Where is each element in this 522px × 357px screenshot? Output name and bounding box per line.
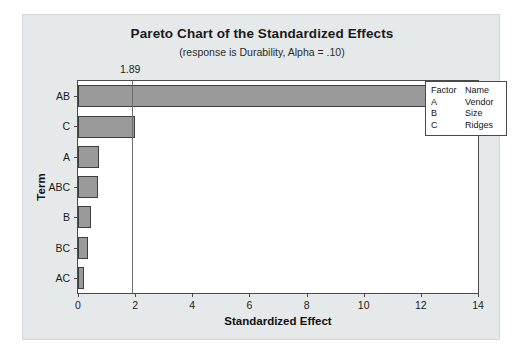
x-tick: [478, 293, 479, 297]
x-tick: [78, 293, 79, 297]
bar-abc: [78, 176, 98, 198]
x-tick: [364, 293, 365, 297]
legend-factor-b: B: [431, 108, 465, 120]
legend-factor-c: C: [431, 120, 465, 132]
chart-subtitle: (response is Durability, Alpha = .10): [23, 46, 501, 58]
legend-header-row: Factor Name: [431, 85, 501, 97]
y-axis-title-label: Term: [35, 173, 47, 200]
y-tick-label-b: B: [63, 211, 70, 223]
x-tick-label-12: 12: [415, 299, 427, 311]
legend-name-b: Size: [465, 108, 501, 120]
bar-row: B: [78, 202, 478, 233]
y-tick-label-ab: AB: [56, 90, 70, 102]
legend-row: A Vendor: [431, 97, 501, 109]
bar-row: ABC: [78, 172, 478, 203]
x-tick-label-6: 6: [247, 299, 253, 311]
legend-header-name: Name: [465, 85, 501, 97]
bar-row: AB: [78, 81, 478, 112]
legend-name-a: Vendor: [465, 97, 501, 109]
pareto-chart: Pareto Chart of the Standardized Effects…: [0, 0, 522, 357]
reference-line: [132, 81, 133, 293]
y-tick-label-bc: BC: [55, 242, 70, 254]
x-tick-label-4: 4: [189, 299, 195, 311]
y-tick: [74, 96, 78, 97]
y-tick-label-a: A: [63, 151, 70, 163]
legend-header-factor: Factor: [431, 85, 465, 97]
y-tick-label-ac: AC: [55, 272, 70, 284]
y-tick: [74, 126, 78, 127]
chart-panel: Pareto Chart of the Standardized Effects…: [22, 14, 500, 340]
y-tick: [74, 217, 78, 218]
y-axis-title: Term: [33, 80, 49, 294]
x-tick: [249, 293, 250, 297]
x-tick-label-8: 8: [304, 299, 310, 311]
y-tick: [74, 248, 78, 249]
plot-area: ABCAABCBBCAC Standardized Effect 0246810…: [77, 80, 479, 294]
y-tick: [74, 157, 78, 158]
x-tick: [135, 293, 136, 297]
legend-name-c: Ridges: [465, 120, 501, 132]
x-tick-label-14: 14: [472, 299, 484, 311]
x-tick: [421, 293, 422, 297]
bar-c: [78, 116, 135, 138]
x-tick-label-10: 10: [358, 299, 370, 311]
y-tick-label-abc: ABC: [48, 181, 70, 193]
bar-row: BC: [78, 232, 478, 263]
bar-row: AC: [78, 263, 478, 294]
legend-factor-a: A: [431, 97, 465, 109]
factor-legend: Factor Name A Vendor B Size C Ridges: [425, 81, 507, 136]
bar-row: A: [78, 142, 478, 173]
reference-line-label: 1.89: [120, 63, 140, 75]
y-tick: [74, 187, 78, 188]
bar-bc: [78, 237, 88, 259]
bar-ac: [78, 267, 84, 289]
y-tick: [74, 278, 78, 279]
y-tick-label-c: C: [62, 120, 70, 132]
x-tick: [307, 293, 308, 297]
legend-row: B Size: [431, 108, 501, 120]
x-axis-title: Standardized Effect: [78, 315, 478, 327]
x-tick: [192, 293, 193, 297]
x-tick-label-2: 2: [132, 299, 138, 311]
bar-a: [78, 146, 99, 168]
legend-row: C Ridges: [431, 120, 501, 132]
bars-layer: ABCAABCBBCAC: [78, 81, 478, 293]
bar-b: [78, 206, 91, 228]
bar-row: C: [78, 111, 478, 142]
x-tick-label-0: 0: [75, 299, 81, 311]
chart-title: Pareto Chart of the Standardized Effects: [23, 26, 501, 41]
